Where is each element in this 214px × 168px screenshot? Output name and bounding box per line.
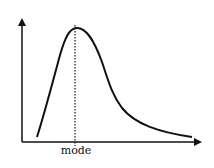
distribution-curve [37,28,192,137]
mode-label: mode [61,144,92,157]
diagram-svg [0,0,214,168]
skewed-distribution-diagram: mode [0,0,214,168]
